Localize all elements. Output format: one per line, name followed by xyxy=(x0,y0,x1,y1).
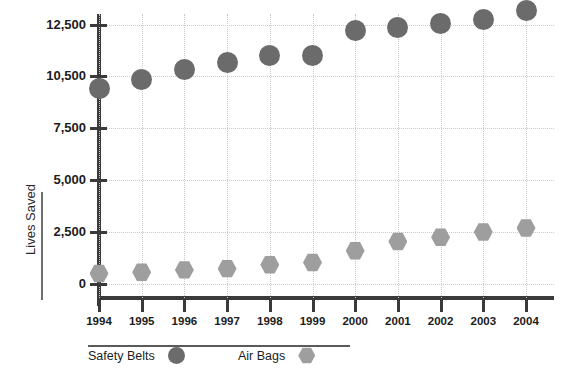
y-axis-tick-label: 0 xyxy=(79,276,86,291)
x-axis-tick xyxy=(525,300,528,312)
data-point-safety-belts xyxy=(217,52,238,73)
gridline-vertical xyxy=(483,14,484,298)
data-point-safety-belts xyxy=(516,0,537,21)
data-point-safety-belts xyxy=(302,45,323,66)
legend-marker-circle xyxy=(168,347,185,364)
gridline-vertical xyxy=(398,14,399,298)
gridline-horizontal xyxy=(99,180,554,181)
y-axis-tick xyxy=(90,231,107,234)
x-axis-tick xyxy=(312,300,315,312)
gridline-vertical xyxy=(99,14,100,298)
lives-saved-scatter-chart: Lives Saved 02,5005,0007,50010,50012,500… xyxy=(0,0,566,384)
y-axis-tick-label: 7,500 xyxy=(53,120,86,135)
legend-item[interactable]: Safety Belts xyxy=(88,347,185,364)
y-axis-tick xyxy=(90,24,107,27)
y-axis-tick-label: 5,000 xyxy=(53,172,86,187)
x-axis-tick xyxy=(269,300,272,312)
data-point-safety-belts xyxy=(89,78,110,99)
data-point-safety-belts xyxy=(387,17,408,38)
gridline-horizontal xyxy=(99,128,554,129)
y-axis-tick xyxy=(90,179,107,182)
y-axis-tick-label: 12,500 xyxy=(46,17,86,32)
gridline-horizontal xyxy=(99,76,554,77)
legend-label: Air Bags xyxy=(238,349,285,363)
x-axis-tick xyxy=(183,300,186,312)
legend-marker-hexagon xyxy=(298,347,315,364)
y-axis-tick-label: 10,500 xyxy=(46,68,86,83)
legend-item[interactable]: Air Bags xyxy=(238,347,315,364)
gridline-vertical xyxy=(441,14,442,298)
x-axis-tick xyxy=(482,300,485,312)
plot-area xyxy=(99,14,554,298)
gridline-vertical xyxy=(142,14,143,298)
x-axis-tick xyxy=(226,300,229,312)
x-axis-tick xyxy=(98,300,101,312)
gridline-vertical xyxy=(184,14,185,298)
x-axis-tick xyxy=(141,300,144,312)
x-axis-tick xyxy=(440,300,443,312)
y-axis-tick xyxy=(90,127,107,130)
gridline-vertical xyxy=(526,14,527,298)
data-point-safety-belts xyxy=(430,13,451,34)
y-axis-tick-label: 2,500 xyxy=(53,224,86,239)
legend-label: Safety Belts xyxy=(88,349,155,363)
x-axis-tick xyxy=(397,300,400,312)
data-point-safety-belts xyxy=(473,9,494,30)
x-axis-tick-label: 2004 xyxy=(496,315,556,327)
gridline-horizontal xyxy=(99,284,554,285)
y-axis-tick xyxy=(90,283,107,286)
x-axis-tick xyxy=(354,300,357,312)
